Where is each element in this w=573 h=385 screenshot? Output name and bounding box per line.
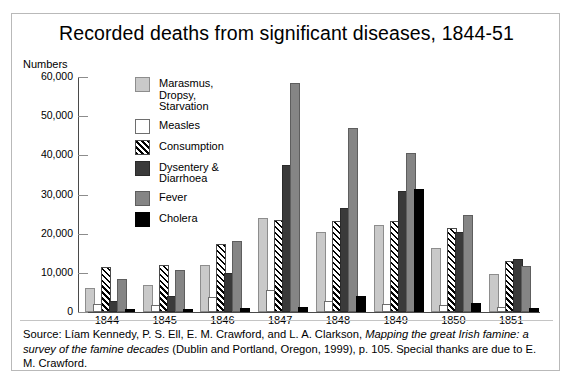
bar[interactable] bbox=[463, 215, 473, 312]
legend-item[interactable]: Fever bbox=[135, 191, 295, 206]
legend-item[interactable]: Marasmus, Dropsy, Starvation bbox=[135, 77, 295, 113]
bar[interactable] bbox=[298, 307, 308, 312]
bar[interactable] bbox=[316, 232, 326, 312]
bar[interactable] bbox=[232, 241, 242, 312]
legend-label: Fever bbox=[159, 191, 187, 204]
legend-item[interactable]: Cholera bbox=[135, 212, 295, 227]
bar[interactable] bbox=[356, 296, 366, 312]
bar-group bbox=[431, 77, 479, 312]
bar[interactable] bbox=[471, 303, 481, 312]
legend-label: Cholera bbox=[159, 212, 198, 225]
y-tick-label: 60,000 bbox=[41, 70, 73, 82]
legend-label: Measles bbox=[159, 119, 200, 132]
y-tick-label: 40,000 bbox=[41, 148, 73, 160]
legend-swatch bbox=[135, 161, 150, 176]
chart-legend: Marasmus, Dropsy, StarvationMeaslesConsu… bbox=[135, 77, 295, 233]
legend-swatch bbox=[135, 212, 150, 227]
legend-item[interactable]: Measles bbox=[135, 119, 295, 134]
legend-label: Marasmus, Dropsy, Starvation bbox=[159, 77, 213, 113]
y-tick-label: 10,000 bbox=[41, 266, 73, 278]
bar-group bbox=[316, 77, 364, 312]
legend-item[interactable]: Consumption bbox=[135, 140, 295, 155]
legend-swatch bbox=[135, 191, 150, 206]
y-tick-label: 20,000 bbox=[41, 227, 73, 239]
chart-title: Recorded deaths from significant disease… bbox=[12, 22, 561, 45]
y-axis-label: Numbers bbox=[23, 58, 68, 70]
legend-item[interactable]: Dysentery & Diarrhoea bbox=[135, 161, 295, 185]
legend-swatch bbox=[135, 77, 150, 92]
bar[interactable] bbox=[117, 279, 127, 312]
y-tick-label: 0 bbox=[67, 305, 73, 317]
bar-group bbox=[489, 77, 537, 312]
x-axis-line bbox=[78, 312, 540, 313]
y-tick-line bbox=[78, 312, 88, 313]
bar[interactable] bbox=[431, 248, 441, 312]
bar-group bbox=[85, 77, 133, 312]
y-tick-label: 50,000 bbox=[41, 109, 73, 121]
source-divider bbox=[20, 320, 553, 321]
bar[interactable] bbox=[175, 270, 185, 312]
bar[interactable] bbox=[529, 308, 539, 312]
bar-group bbox=[374, 77, 422, 312]
bar[interactable] bbox=[414, 189, 424, 312]
bar[interactable] bbox=[125, 309, 135, 313]
bar[interactable] bbox=[374, 225, 384, 312]
bar[interactable] bbox=[521, 266, 531, 312]
source-note: Source: Líam Kennedy, P. S. Ell, E. M. C… bbox=[23, 327, 551, 371]
legend-swatch bbox=[135, 119, 150, 134]
bar[interactable] bbox=[240, 308, 250, 312]
figure-panel: Recorded deaths from significant disease… bbox=[11, 13, 560, 371]
y-tick-label: 30,000 bbox=[41, 188, 73, 200]
legend-label: Consumption bbox=[159, 140, 224, 153]
bar[interactable] bbox=[348, 128, 358, 312]
legend-swatch bbox=[135, 140, 150, 155]
source-prefix: Source: Líam Kennedy, P. S. Ell, E. M. C… bbox=[23, 328, 365, 340]
legend-label: Dysentery & Diarrhoea bbox=[159, 161, 219, 185]
bar[interactable] bbox=[183, 309, 193, 313]
